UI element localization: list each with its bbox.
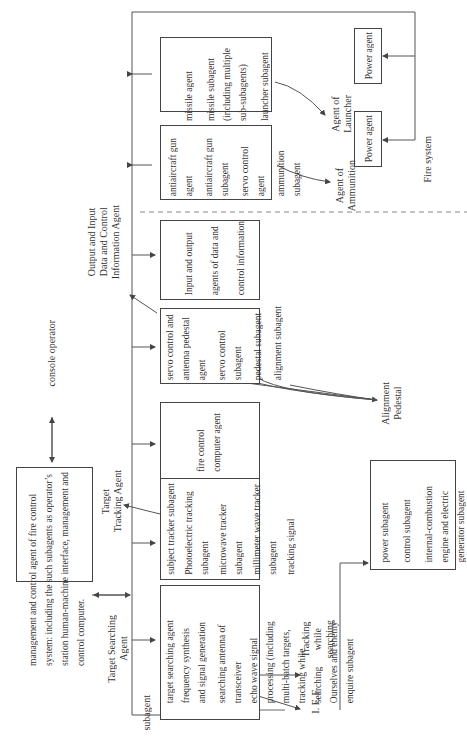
subagent-label: subagent	[141, 695, 153, 731]
fire-system-label: Fire system	[422, 136, 434, 182]
agent-of-launcher-label: Agent of Launcher	[330, 95, 354, 133]
fire-control-computer-agent-box: fire control computer agent	[160, 402, 260, 479]
alignment-pedestal-label: Alignment Pedestal	[380, 382, 404, 425]
power-agent-box-2: Power agent	[354, 111, 382, 167]
tracking-while-searching-label: Tracking while searching	[300, 620, 336, 658]
target-searching-agent-box: target searching agent frequency synthes…	[160, 585, 260, 720]
target-searching-agent-label: Target Searching Agent	[106, 615, 130, 683]
target-tracking-agent-label: Target Tracking Agent	[100, 470, 124, 532]
iff-label: I. F. F	[310, 690, 322, 714]
antiaircraft-gun-agent-box: antiaircraft gun agent antiaircraft gun …	[160, 125, 272, 200]
missile-agent-box: missile agent missile subagent (includin…	[160, 37, 272, 112]
io-data-control-agent-box: Input and output agents of data and cont…	[160, 220, 260, 300]
power-subagent-box: power subagent control subagent internal…	[370, 460, 456, 570]
agent-of-ammunition-label: Agent of Ammunition	[334, 160, 358, 211]
power-agent-box-1: Power agent	[354, 28, 382, 84]
output-input-agent-label: Output and Input Data and Control Inform…	[86, 205, 122, 279]
console-operator-label: console operator	[46, 320, 58, 386]
servo-antenna-pedestal-agent-box: servo control and antenna pedestal agent…	[160, 308, 260, 384]
management-line-1: management and control agent of fire con…	[27, 472, 39, 666]
management-line-4: control computer.	[75, 472, 87, 666]
management-line-2: system: including the such subagents as …	[43, 472, 55, 666]
management-line-3: station human-machine interface, managem…	[59, 472, 71, 666]
management-control-agent-box: management and control agent of fire con…	[16, 467, 93, 582]
